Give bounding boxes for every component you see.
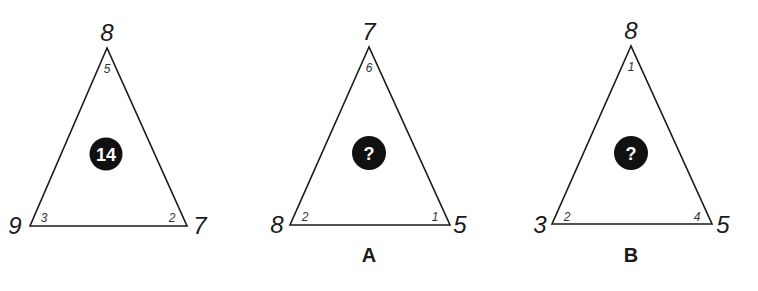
triangle-puzzle: 8 9 7 5 3 2 14 7 8 5 6 2 1 ? A 8 3 5 1 2…: [0, 0, 758, 291]
angle-right-value: 1: [432, 210, 439, 224]
corner-right-value: 7: [193, 212, 208, 239]
corner-left-value: 8: [270, 211, 284, 238]
angle-right-value: 2: [168, 211, 176, 225]
corner-right-value: 5: [453, 211, 467, 238]
angle-left-value: 2: [301, 210, 309, 224]
corner-left-value: 9: [8, 212, 21, 239]
triangle-a: 7 8 5 6 2 1 ? A: [270, 18, 467, 266]
angle-top-value: 6: [366, 61, 373, 75]
unknown-value: ?: [364, 144, 375, 164]
unknown-value: ?: [626, 144, 637, 164]
angle-left-value: 2: [563, 210, 571, 224]
corner-left-value: 3: [533, 211, 547, 238]
caption-b: B: [624, 244, 638, 266]
corner-top-value: 7: [362, 18, 377, 45]
corner-top-value: 8: [100, 19, 114, 46]
angle-left-value: 3: [41, 211, 48, 225]
angle-top-value: 5: [104, 62, 111, 76]
corner-right-value: 5: [716, 211, 730, 238]
triangle-b: 8 3 5 1 2 4 ? B: [533, 17, 730, 266]
triangle-example: 8 9 7 5 3 2 14: [8, 19, 208, 239]
angle-right-value: 4: [694, 210, 701, 224]
angle-top-value: 1: [628, 60, 635, 74]
center-value: 14: [96, 145, 116, 165]
corner-top-value: 8: [624, 17, 638, 44]
caption-a: A: [362, 244, 376, 266]
